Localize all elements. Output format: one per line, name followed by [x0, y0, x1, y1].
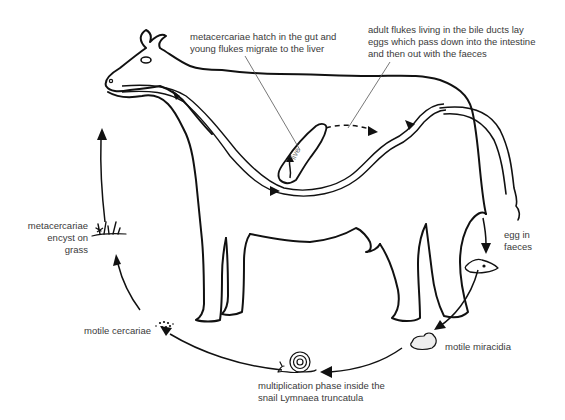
motile-cercariae-label: motile cercariae	[84, 325, 151, 337]
snail-icon	[278, 352, 316, 373]
encyst-label: metacercariae encyst on grass	[26, 220, 88, 256]
tract-arrow-icon	[405, 120, 415, 130]
fluke-lifecycle-diagram	[0, 0, 565, 420]
egg-in-faeces-label: egg in faeces	[504, 229, 532, 253]
miracidia-icon	[411, 333, 436, 350]
tract-arrow-icon	[270, 186, 280, 196]
egg-icon	[465, 259, 498, 272]
motile-miracidia-label: motile miracidia	[445, 341, 511, 353]
cow-icon	[106, 30, 486, 322]
digestive-tract	[122, 85, 446, 196]
leader-line	[245, 56, 300, 150]
cercariae-icon	[155, 321, 174, 331]
leader-line	[348, 62, 390, 128]
adult-flukes-label: adult flukes living in the bile ducts la…	[368, 24, 535, 60]
grass-icon	[92, 222, 126, 236]
snail-label: multiplication phase inside the snail Ly…	[258, 380, 385, 404]
hatch-label: metacercariae hatch in the gut and young…	[190, 31, 336, 55]
